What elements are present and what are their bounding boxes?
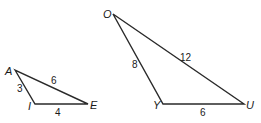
vertex-label-o: O <box>103 8 112 20</box>
side-label-yu: 6 <box>200 107 206 118</box>
vertex-label-u: U <box>246 99 254 111</box>
side-label-ou: 12 <box>180 52 192 63</box>
triangle-oyu: O Y U 8 12 6 <box>103 8 254 118</box>
vertex-label-a: A <box>4 65 12 77</box>
side-label-oy: 8 <box>132 59 138 70</box>
vertex-label-i: I <box>28 100 31 112</box>
triangle-aie: A I E 3 6 4 <box>4 65 98 118</box>
vertex-label-y: Y <box>153 99 161 111</box>
vertex-label-e: E <box>90 99 98 111</box>
side-label-ae: 6 <box>51 75 57 86</box>
similar-triangles-diagram: A I E 3 6 4 O Y U 8 12 6 <box>0 0 261 123</box>
side-label-ai: 3 <box>17 83 23 94</box>
side-label-ie: 4 <box>55 107 61 118</box>
